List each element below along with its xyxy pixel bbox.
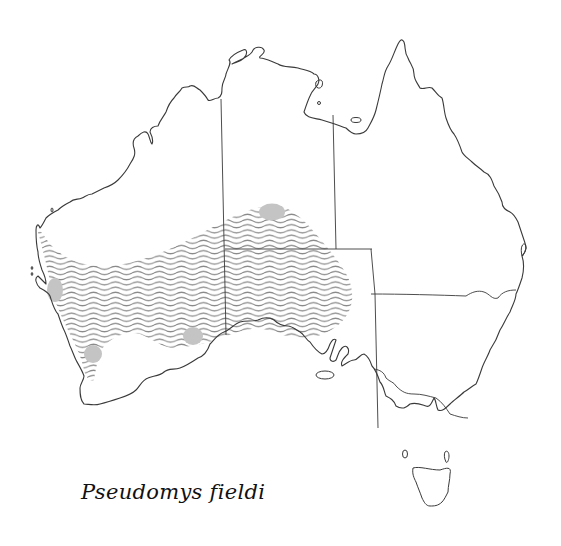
spot-central-north: [259, 204, 285, 221]
species-name-label: Pseudomys fieldi: [81, 480, 265, 504]
small-island-gulf: [318, 102, 321, 105]
tasmania-outline: [413, 467, 451, 506]
fraser-island: [521, 244, 526, 256]
spot-west-coast: [47, 278, 63, 302]
border-nt-qld: [333, 115, 336, 249]
range-hatched-area: [30, 195, 370, 395]
border-sa-east: [371, 249, 378, 428]
shark-bay-islet-1: [31, 267, 33, 270]
mornington-island: [351, 118, 361, 123]
flinders-island: [444, 451, 449, 462]
kangaroo-island: [316, 371, 334, 379]
king-island: [403, 450, 408, 458]
australia-distribution-map: [0, 0, 561, 546]
shark-bay-islet-2: [31, 273, 33, 276]
border-nsw-vic: [374, 369, 468, 418]
spot-southwest: [84, 345, 102, 363]
border-qld-nsw: [371, 290, 516, 298]
barrow-island: [51, 208, 53, 212]
spot-south-central: [183, 327, 203, 345]
